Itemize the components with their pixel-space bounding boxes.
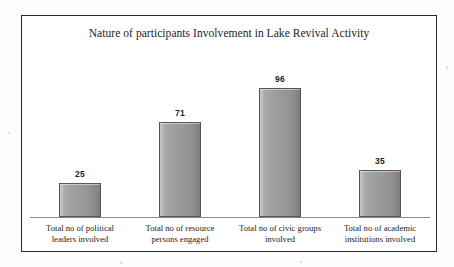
bar-group: 25 [30,16,130,218]
category-label-line: Total no of resource [131,223,229,234]
bar[interactable] [59,183,101,217]
category-label-line: leaders involved [31,234,129,245]
category-label-line: Total no of civic groups [231,223,329,234]
bar-group: 96 [230,16,330,218]
category-label-line: Total no of academic [331,223,429,234]
bar-wrapper: 35 [359,170,401,217]
category-label-line: persons engaged [131,234,229,245]
bar-wrapper: 25 [59,183,101,217]
category-label-line: institutions involved [331,234,429,245]
bar-wrapper: 96 [259,88,301,217]
scanned-page: Nature of participants Involvement in La… [0,0,454,267]
category-label: Total no of resource persons engaged [130,221,230,251]
category-label-line: Total no of political [31,223,129,234]
category-label: Total no of academic institutions involv… [330,221,430,251]
bar-value-label: 25 [75,169,85,179]
bar[interactable] [159,122,201,217]
chart-frame: Nature of participants Involvement in La… [21,15,437,252]
bar[interactable] [259,88,301,217]
category-axis-labels: Total no of political leaders involved T… [30,221,430,251]
bar-group: 35 [330,16,430,218]
bar-wrapper: 71 [159,122,201,217]
scan-speck [300,261,302,263]
category-label: Total no of political leaders involved [30,221,130,251]
bar-value-label: 96 [275,74,285,84]
bar-value-label: 71 [175,108,185,118]
category-label-line: involved [231,234,329,245]
scan-speck [446,66,448,69]
bar[interactable] [359,170,401,217]
bar-series: 25 71 96 [30,16,430,218]
bar-group: 71 [130,16,230,218]
scan-speck [120,262,123,264]
scan-speck [8,132,10,134]
plot-area: 25 71 96 [22,16,436,251]
bar-value-label: 35 [375,156,385,166]
category-label: Total no of civic groups involved [230,221,330,251]
